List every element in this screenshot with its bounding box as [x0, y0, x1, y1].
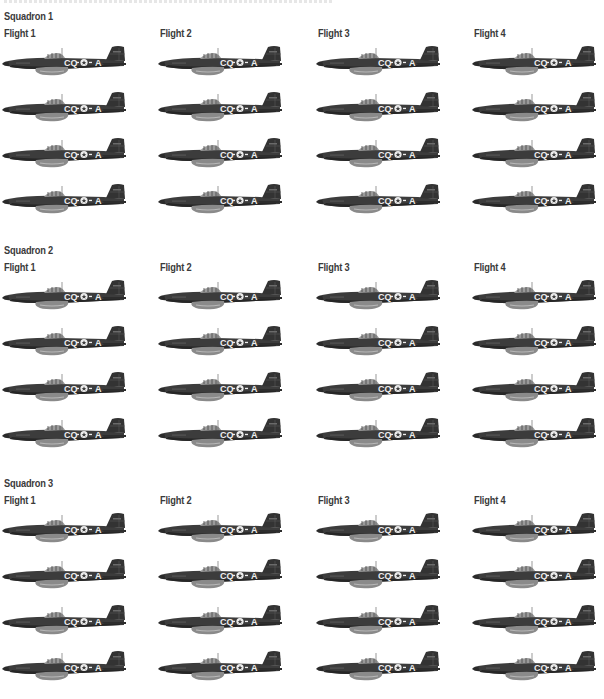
p51-mustang-icon: CQ A: [156, 370, 286, 406]
p51-mustang-icon: CQ A: [470, 182, 600, 218]
svg-text:A: A: [409, 525, 416, 535]
p51-mustang-icon: CQ A: [470, 511, 600, 547]
p51-mustang-icon: CQ A: [314, 44, 444, 80]
aircraft-profile: CQ A: [470, 182, 600, 218]
svg-text:A: A: [95, 663, 102, 673]
svg-text:CQ: CQ: [534, 663, 548, 673]
aircraft-profile: CQ A: [314, 603, 444, 639]
aircraft-profile: CQ A: [0, 278, 130, 314]
svg-text:A: A: [409, 663, 416, 673]
aircraft-profile: CQ A: [314, 182, 444, 218]
svg-text:CQ: CQ: [378, 571, 392, 581]
svg-text:A: A: [251, 58, 258, 68]
svg-text:CQ: CQ: [534, 196, 548, 206]
aircraft-profile: CQ A: [0, 44, 130, 80]
flight-title: Flight 2: [160, 261, 191, 273]
svg-text:A: A: [565, 104, 572, 114]
svg-text:CQ: CQ: [220, 617, 234, 627]
p51-mustang-icon: CQ A: [156, 44, 286, 80]
aircraft-profile: CQ A: [156, 90, 286, 126]
p51-mustang-icon: CQ A: [470, 90, 600, 126]
svg-text:CQ: CQ: [220, 525, 234, 535]
aircraft-profile: CQ A: [470, 136, 600, 172]
aircraft-profile: CQ A: [314, 370, 444, 406]
svg-text:A: A: [95, 292, 102, 302]
svg-text:A: A: [565, 384, 572, 394]
svg-text:CQ: CQ: [64, 430, 78, 440]
flight-title: Flight 3: [318, 261, 349, 273]
svg-text:CQ: CQ: [378, 150, 392, 160]
svg-text:CQ: CQ: [378, 663, 392, 673]
aircraft-profile: CQ A: [156, 44, 286, 80]
p51-mustang-icon: CQ A: [0, 90, 130, 126]
svg-text:CQ: CQ: [378, 617, 392, 627]
svg-text:A: A: [565, 292, 572, 302]
flight-title: Flight 4: [474, 261, 505, 273]
svg-text:A: A: [565, 525, 572, 535]
svg-text:A: A: [95, 571, 102, 581]
p51-mustang-icon: CQ A: [314, 370, 444, 406]
svg-text:A: A: [565, 58, 572, 68]
svg-text:CQ: CQ: [378, 338, 392, 348]
svg-text:CQ: CQ: [378, 104, 392, 114]
aircraft-profile: CQ A: [0, 324, 130, 360]
p51-mustang-icon: CQ A: [156, 603, 286, 639]
svg-text:A: A: [409, 58, 416, 68]
flight-title: Flight 4: [474, 27, 505, 39]
svg-text:CQ: CQ: [378, 525, 392, 535]
p51-mustang-icon: CQ A: [0, 324, 130, 360]
aircraft-profile: CQ A: [470, 324, 600, 360]
p51-mustang-icon: CQ A: [470, 44, 600, 80]
p51-mustang-icon: CQ A: [156, 278, 286, 314]
aircraft-profile: CQ A: [156, 557, 286, 593]
svg-text:A: A: [95, 104, 102, 114]
p51-mustang-icon: CQ A: [470, 603, 600, 639]
p51-mustang-icon: CQ A: [314, 603, 444, 639]
svg-text:A: A: [95, 617, 102, 627]
p51-mustang-icon: CQ A: [156, 511, 286, 547]
p51-mustang-icon: CQ A: [470, 278, 600, 314]
p51-mustang-icon: CQ A: [314, 90, 444, 126]
aircraft-profile: CQ A: [470, 90, 600, 126]
svg-text:A: A: [95, 58, 102, 68]
aircraft-profile: CQ A: [0, 557, 130, 593]
p51-mustang-icon: CQ A: [156, 182, 286, 218]
p51-mustang-icon: CQ A: [0, 603, 130, 639]
aircraft-profile: CQ A: [156, 370, 286, 406]
flight-title: Flight 1: [4, 494, 35, 506]
svg-text:A: A: [95, 150, 102, 160]
svg-text:CQ: CQ: [534, 430, 548, 440]
aircraft-profile: CQ A: [156, 416, 286, 452]
svg-text:CQ: CQ: [378, 384, 392, 394]
svg-text:CQ: CQ: [220, 571, 234, 581]
aircraft-profile: CQ A: [314, 90, 444, 126]
p51-mustang-icon: CQ A: [470, 557, 600, 593]
p51-mustang-icon: CQ A: [156, 136, 286, 172]
svg-text:CQ: CQ: [64, 104, 78, 114]
svg-text:CQ: CQ: [64, 58, 78, 68]
svg-text:A: A: [409, 430, 416, 440]
svg-text:A: A: [95, 196, 102, 206]
svg-text:CQ: CQ: [534, 384, 548, 394]
svg-text:CQ: CQ: [534, 525, 548, 535]
svg-text:A: A: [409, 338, 416, 348]
svg-text:CQ: CQ: [64, 617, 78, 627]
aircraft-profile: CQ A: [0, 370, 130, 406]
aircraft-profile: CQ A: [0, 182, 130, 218]
p51-mustang-icon: CQ A: [0, 136, 130, 172]
aircraft-profile: CQ A: [314, 44, 444, 80]
svg-text:A: A: [409, 150, 416, 160]
svg-text:CQ: CQ: [220, 58, 234, 68]
svg-text:A: A: [251, 104, 258, 114]
aircraft-profile: CQ A: [314, 416, 444, 452]
aircraft-profile: CQ A: [470, 370, 600, 406]
p51-mustang-icon: CQ A: [470, 370, 600, 406]
svg-text:CQ: CQ: [534, 58, 548, 68]
aircraft-profile: CQ A: [0, 603, 130, 639]
p51-mustang-icon: CQ A: [470, 324, 600, 360]
p51-mustang-icon: CQ A: [156, 416, 286, 452]
svg-text:CQ: CQ: [534, 338, 548, 348]
aircraft-profile: CQ A: [470, 511, 600, 547]
aircraft-profile: CQ A: [156, 278, 286, 314]
svg-text:A: A: [565, 663, 572, 673]
